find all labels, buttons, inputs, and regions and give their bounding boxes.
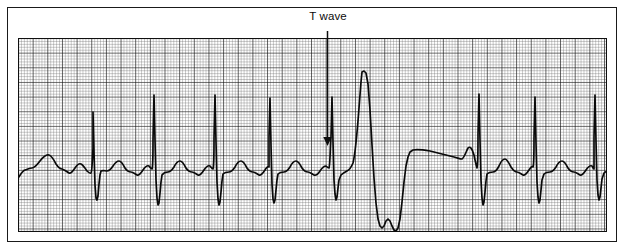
- ecg-signal-path: [18, 71, 607, 231]
- ecg-graph-paper: [18, 38, 607, 232]
- ecg-waveform-trace: [18, 38, 607, 232]
- ecg-figure: T wave: [0, 0, 625, 252]
- t-wave-annotation-label: T wave: [282, 10, 374, 23]
